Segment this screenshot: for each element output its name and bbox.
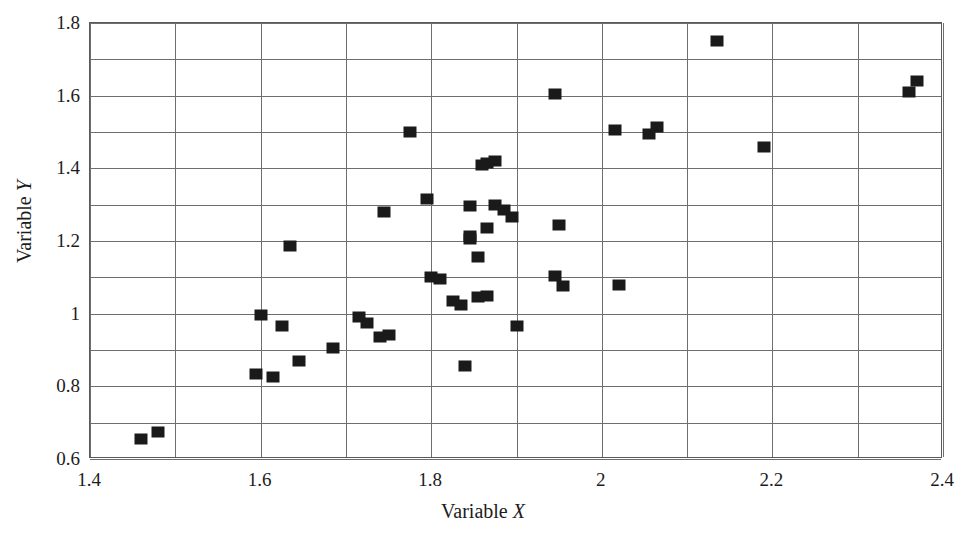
data-point (548, 88, 561, 99)
gridline-horizontal (90, 96, 941, 97)
x-tick-label: 2.4 (902, 470, 966, 489)
data-point (757, 141, 770, 152)
data-point (420, 194, 433, 205)
gridline-vertical (943, 23, 944, 457)
gridline-horizontal (90, 132, 941, 133)
x-tick-label: 1.8 (390, 470, 470, 489)
gridline-horizontal (90, 314, 941, 315)
data-point (651, 121, 664, 132)
gridline-horizontal (90, 168, 941, 169)
data-point (254, 310, 267, 321)
data-point (480, 223, 493, 234)
data-point (135, 434, 148, 445)
data-point (327, 343, 340, 354)
gridline-vertical (858, 23, 859, 457)
gridline-horizontal (90, 277, 941, 278)
plot-area (89, 22, 942, 458)
x-axis-tick-labels: 1.41.61.822.22.4 (0, 470, 966, 498)
gridline-horizontal (90, 386, 941, 387)
data-point (472, 252, 485, 263)
data-point (382, 330, 395, 341)
data-point (275, 321, 288, 332)
gridline-horizontal (90, 423, 941, 424)
data-point (455, 299, 468, 310)
gridline-horizontal (90, 459, 941, 460)
data-point (480, 290, 493, 301)
y-axis-title-symbol: Y (13, 180, 35, 191)
data-point (459, 361, 472, 372)
data-point (361, 317, 374, 328)
gridline-vertical (261, 23, 262, 457)
data-point (403, 127, 416, 138)
x-tick-label: 2 (561, 470, 641, 489)
data-point (553, 219, 566, 230)
data-point (608, 125, 621, 136)
y-tick-label: 0.6 (2, 449, 80, 468)
data-point (378, 206, 391, 217)
data-point (902, 87, 915, 98)
gridline-vertical (687, 23, 688, 457)
y-axis-title: Variable Y (13, 102, 36, 342)
data-point (506, 212, 519, 223)
x-tick-label: 2.2 (731, 470, 811, 489)
data-point (612, 279, 625, 290)
data-point (267, 372, 280, 383)
gridline-vertical (772, 23, 773, 457)
data-point (284, 241, 297, 252)
data-point (463, 201, 476, 212)
data-point (463, 230, 476, 241)
x-tick-label: 1.4 (49, 470, 129, 489)
gridline-horizontal (90, 23, 941, 24)
data-point (292, 355, 305, 366)
data-point (433, 274, 446, 285)
x-axis-title-symbol: X (513, 500, 525, 522)
gridline-horizontal (90, 350, 941, 351)
data-point (250, 368, 263, 379)
gridline-vertical (90, 23, 91, 457)
gridline-vertical (517, 23, 518, 457)
x-tick-label: 1.6 (220, 470, 300, 489)
data-point (489, 156, 502, 167)
scatter-plot-figure: 0.60.811.21.41.61.8 1.41.61.822.22.4 Var… (0, 0, 966, 539)
gridline-horizontal (90, 241, 941, 242)
data-point (911, 76, 924, 87)
data-point (548, 270, 561, 281)
y-tick-label: 1.8 (2, 13, 80, 32)
y-axis-title-text: Variable (13, 191, 35, 263)
data-point (152, 426, 165, 437)
gridline-vertical (431, 23, 432, 457)
gridline-vertical (602, 23, 603, 457)
gridline-vertical (346, 23, 347, 457)
gridline-vertical (175, 23, 176, 457)
x-axis-title: Variable X (0, 500, 966, 523)
data-point (710, 36, 723, 47)
y-tick-label: 0.8 (2, 376, 80, 395)
gridline-horizontal (90, 59, 941, 60)
x-axis-title-text: Variable (441, 500, 513, 522)
data-point (557, 281, 570, 292)
data-point (510, 321, 523, 332)
gridline-horizontal (90, 205, 941, 206)
